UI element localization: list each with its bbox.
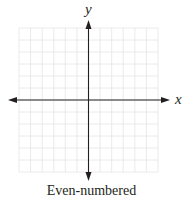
y-axis-up-arrow-icon: [86, 20, 92, 29]
y-axis-label: y: [85, 2, 92, 17]
x-axis-right-arrow-icon: [161, 97, 170, 103]
coordinate-plane: [0, 0, 183, 199]
graph-caption: Even-numbered: [0, 183, 183, 199]
y-axis-down-arrow-icon: [86, 172, 92, 181]
x-axis-left-arrow-icon: [8, 97, 17, 103]
x-axis-label: x: [175, 92, 182, 107]
